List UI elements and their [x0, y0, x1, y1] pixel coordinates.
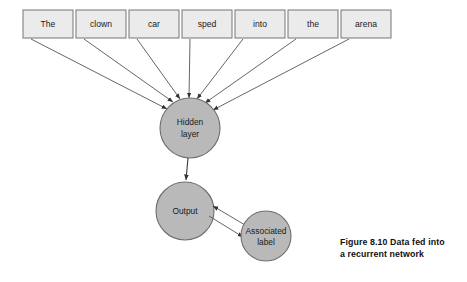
- token-box-3[interactable]: sped: [182, 10, 232, 38]
- token-box-1[interactable]: clown: [76, 10, 126, 38]
- edge-hidden-to-output: [186, 158, 188, 180]
- output-label: Output: [172, 206, 198, 216]
- token-box-label: sped: [198, 19, 217, 29]
- associated-label-circle: [241, 211, 291, 261]
- edge-label-to-output: [213, 206, 245, 225]
- hidden-layer-circle: [160, 98, 220, 158]
- output-node[interactable]: Output: [156, 182, 214, 240]
- associated-label-line-1: Associated: [246, 226, 287, 236]
- token-box-2[interactable]: car: [129, 10, 179, 38]
- token-box-4[interactable]: into: [235, 10, 285, 38]
- hidden-layer-label-line-2: layer: [181, 129, 199, 139]
- edge-token-3-to-hidden: [189, 39, 190, 98]
- associated-label-node[interactable]: Associated label: [241, 211, 291, 261]
- token-box-label: The: [41, 19, 56, 29]
- token-box-5[interactable]: the: [288, 10, 338, 38]
- token-box-0[interactable]: The: [23, 10, 73, 38]
- edge-token-2-to-hidden: [137, 39, 180, 99]
- edge-token-4-to-hidden: [197, 39, 243, 99]
- token-box-label: clown: [90, 19, 112, 29]
- figure-caption-line-2: a recurrent network: [340, 249, 424, 261]
- token-box-label: arena: [355, 19, 377, 29]
- token-box-label: into: [253, 19, 267, 29]
- token-box-6[interactable]: arena: [341, 10, 391, 38]
- hidden-layer-node[interactable]: Hidden layer: [160, 98, 220, 158]
- token-box-label: the: [307, 19, 319, 29]
- input-token-boxes: The clown car sped into the: [23, 10, 391, 38]
- token-box-label: car: [148, 19, 160, 29]
- hidden-layer-label-line-1: Hidden: [177, 117, 204, 127]
- edge-output-to-label: [209, 216, 243, 237]
- figure-canvas: The clown car sped into the: [0, 0, 467, 282]
- associated-label-line-2: label: [257, 237, 275, 247]
- figure-caption-line-1: Figure 8.10 Data fed into: [340, 237, 445, 249]
